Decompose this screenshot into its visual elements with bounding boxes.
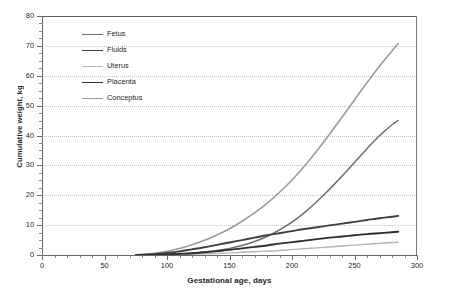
legend-item-conceptus: Conceptus	[82, 90, 142, 106]
legend-label: Fluids	[107, 46, 127, 53]
y-axis-title: Cumulative weight, kg	[15, 62, 24, 192]
x-tick	[417, 255, 418, 260]
y-tick-label: 20	[0, 191, 34, 198]
y-tick-label: 70	[0, 42, 34, 49]
series-line-conceptus	[136, 43, 399, 255]
x-tick-label: 250	[335, 262, 375, 269]
legend-label: Conceptus	[107, 94, 142, 101]
legend-item-placenta: Placenta	[82, 74, 142, 90]
y-tick-label: 10	[0, 221, 34, 228]
legend-swatch-icon	[82, 98, 103, 99]
x-tick-label: 100	[147, 262, 187, 269]
x-tick-label: 50	[85, 262, 125, 269]
legend-label: Placenta	[107, 78, 136, 85]
legend-item-fetus: Fetus	[82, 26, 142, 42]
series-line-uterus	[136, 242, 399, 255]
line-chart: 01020304050607080 050100150200250300 Fet…	[0, 0, 459, 298]
legend-swatch-icon	[82, 34, 103, 35]
x-axis-title: Gestational age, days	[42, 276, 417, 285]
legend-item-uterus: Uterus	[82, 58, 142, 74]
y-tick-label: 0	[0, 251, 34, 258]
y-tick-label: 80	[0, 12, 34, 19]
x-tick-label: 150	[210, 262, 250, 269]
legend-swatch-icon	[82, 66, 103, 67]
legend-swatch-icon	[82, 82, 103, 83]
legend-label: Fetus	[107, 30, 125, 37]
x-tick-label: 300	[397, 262, 437, 269]
legend-label: Uterus	[107, 62, 129, 69]
legend-swatch-icon	[82, 50, 103, 51]
legend-item-fluids: Fluids	[82, 42, 142, 58]
x-tick-label: 200	[272, 262, 312, 269]
x-tick-label: 0	[22, 262, 62, 269]
legend: FetusFluidsUterusPlacentaConceptus	[82, 26, 142, 106]
